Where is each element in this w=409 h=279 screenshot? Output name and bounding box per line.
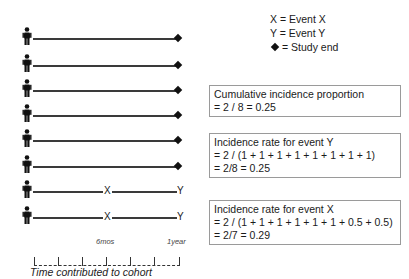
participant-row-7: X Y (22, 184, 187, 198)
follow-up-line (33, 65, 179, 67)
diamond-icon (174, 34, 182, 42)
participant-row-4 (22, 108, 187, 122)
box-formula: = 2 / 8 = 0.25 (214, 101, 396, 114)
follow-up-line (33, 115, 179, 117)
follow-up-line (33, 166, 179, 168)
box-formula: = 2 / (1 + 1 + 1 + 1 + 1 + 1 + 0.5 + 0.5… (214, 216, 396, 229)
axis-tick (154, 257, 155, 266)
legend: X = Event X Y = Event Y = Study end (270, 12, 338, 54)
diamond-icon (174, 86, 182, 94)
follow-up-line (33, 90, 179, 92)
diamond-icon (174, 111, 182, 119)
diamond-icon (174, 162, 182, 170)
axis-title: Time contributed to cohort (30, 266, 152, 278)
person-icon (22, 104, 32, 122)
diamond-icon (174, 136, 182, 144)
diamond-icon (174, 61, 182, 69)
event-y-marker: Y (177, 186, 184, 196)
axis-tick (34, 257, 35, 266)
box-result: = 2/8 = 0.25 (214, 162, 396, 175)
axis-tick (130, 257, 131, 266)
axis-label-6mos: 6mos (96, 237, 114, 246)
cumulative-incidence-box: Cumulative incidence proportion = 2 / 8 … (209, 85, 401, 117)
diamond-icon (271, 43, 279, 51)
participant-row-3 (22, 83, 187, 97)
follow-up-line (33, 38, 179, 40)
axis-tick (179, 257, 180, 266)
person-icon (22, 79, 32, 97)
event-x-marker: X (103, 212, 112, 222)
person-icon (22, 155, 32, 173)
legend-item-event-y: Y = Event Y (270, 26, 338, 40)
axis-tick (106, 257, 107, 266)
box-title: Incidence rate for event X (214, 203, 396, 216)
participant-row-2 (22, 58, 187, 72)
participant-row-5 (22, 133, 187, 147)
axis-tick (82, 257, 83, 266)
person-icon (22, 27, 32, 45)
incidence-rate-y-box: Incidence rate for event Y = 2 / (1 + 1 … (209, 133, 401, 178)
person-icon (22, 206, 32, 224)
event-x-marker: X (103, 186, 112, 196)
legend-item-study-end: = Study end (270, 40, 338, 54)
person-icon (22, 129, 32, 147)
participant-row-1 (22, 31, 187, 45)
participant-row-6 (22, 159, 187, 173)
legend-item-event-x: X = Event X (270, 12, 338, 26)
event-y-marker: Y (177, 212, 184, 222)
box-title: Cumulative incidence proportion (214, 88, 396, 101)
axis-label-1year: 1year (167, 237, 186, 246)
follow-up-line (33, 140, 179, 142)
incidence-rate-x-box: Incidence rate for event X = 2 / (1 + 1 … (209, 200, 401, 245)
participant-row-8: X Y (22, 210, 187, 224)
box-formula: = 2 / (1 + 1 + 1 + 1 + 1 + 1 + 1 + 1) (214, 149, 396, 162)
person-icon (22, 54, 32, 72)
box-result: = 2/7 = 0.29 (214, 229, 396, 242)
box-title: Incidence rate for event Y (214, 136, 396, 149)
person-icon (22, 180, 32, 198)
axis-tick (58, 257, 59, 266)
